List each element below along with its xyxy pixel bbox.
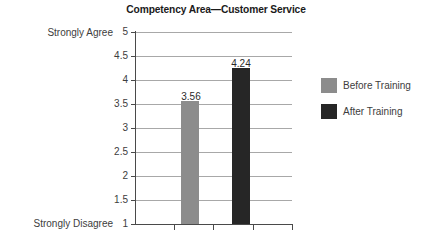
legend-swatch-icon-after-training — [321, 104, 337, 119]
y-tick-label-4: 4 — [122, 75, 128, 85]
x-tick-mark-4 — [292, 225, 293, 230]
bar-value-after-training: 4.24 — [219, 58, 263, 69]
legend-label-after-training: After Training — [343, 106, 402, 117]
chart-title: Competency Area—Customer Service — [116, 3, 317, 15]
chart-legend: Before Training After Training — [321, 77, 411, 129]
axis-anchor-strongly-agree: Strongly Agree — [47, 27, 113, 38]
y-tick-label-1: 1 — [122, 219, 128, 229]
y-tick-label-2-5: 2.5 — [114, 147, 128, 157]
bar-after-training — [232, 68, 250, 224]
x-tick-mark-2 — [213, 225, 214, 230]
axis-anchor-strongly-disagree: Strongly Disagree — [34, 218, 113, 229]
y-tick-label-3-5: 3.5 — [114, 99, 128, 109]
y-tick-label-1-5: 1.5 — [114, 195, 128, 205]
y-tick-label-4-5: 4.5 — [114, 51, 128, 61]
x-tick-mark-3 — [253, 225, 254, 230]
bar-before-training — [181, 101, 199, 224]
legend-label-before-training: Before Training — [343, 80, 411, 91]
legend-swatch-icon-before-training — [321, 78, 337, 93]
y-tick-label-3: 3 — [122, 123, 128, 133]
y-tick-label-2: 2 — [122, 171, 128, 181]
bar-value-before-training: 3.56 — [169, 91, 213, 102]
legend-item-before-training: Before Training — [321, 77, 411, 93]
x-tick-mark-1 — [174, 225, 175, 230]
y-tick-label-5: 5 — [122, 27, 128, 37]
x-axis-line — [135, 224, 293, 225]
chart-container: Competency Area—Customer Service Strongl… — [0, 0, 424, 240]
legend-item-after-training: After Training — [321, 103, 411, 119]
plot-area — [135, 32, 292, 224]
